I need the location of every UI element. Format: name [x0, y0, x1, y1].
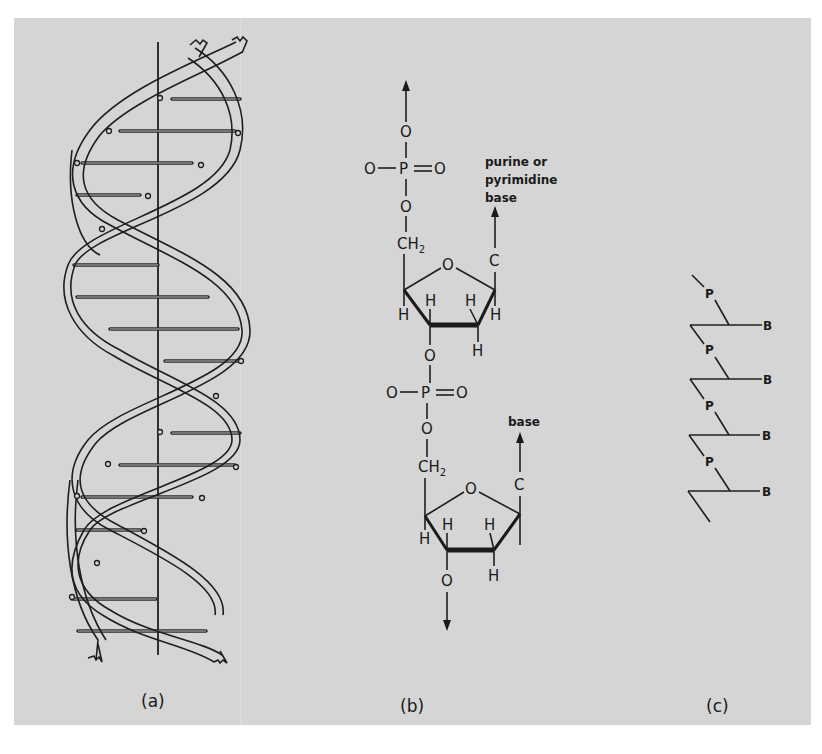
phosphate-label: P	[705, 399, 714, 413]
phosphate-label: P	[705, 343, 714, 357]
atom-o: O	[456, 384, 468, 402]
atom-h: H	[419, 530, 430, 548]
atom-h: H	[442, 516, 453, 534]
atom-o: O	[400, 123, 412, 141]
helix-strand-back	[64, 40, 243, 663]
phosphate-label: P	[705, 455, 714, 469]
atom-c: C	[514, 476, 524, 494]
arrow-down-icon	[443, 620, 451, 631]
atom-o: O	[386, 384, 398, 402]
backbone-schematic-diagram: P B P B P B P B (c)	[688, 275, 772, 716]
atom-h: H	[488, 567, 499, 585]
panel-label-a: (a)	[141, 691, 165, 711]
atom-o: O	[400, 198, 412, 216]
base-pair-rungs	[72, 99, 240, 631]
atom-h: H	[425, 292, 436, 310]
base-label: B	[763, 373, 772, 387]
atom-o: O	[421, 420, 433, 438]
atom-c: C	[489, 252, 499, 270]
figure-canvas: (a) O O P O O CH2 O C purine or pyrimidi…	[0, 0, 822, 754]
atom-h: H	[398, 306, 409, 324]
base-label-line3: base	[485, 191, 517, 205]
arrow-up-icon	[402, 80, 410, 91]
arrow-up-icon	[491, 206, 499, 217]
atom-o: O	[424, 347, 436, 365]
atom-h: H	[472, 342, 483, 360]
base-label: base	[508, 415, 540, 429]
double-helix-diagram: (a)	[64, 37, 250, 711]
base-label: B	[762, 429, 771, 443]
base-label: B	[762, 485, 771, 499]
base-label: B	[763, 319, 772, 333]
atom-h: H	[484, 516, 495, 534]
atom-o: O	[364, 160, 376, 178]
atom-p: P	[421, 384, 430, 402]
atom-o: O	[434, 160, 446, 178]
atom-p: P	[399, 160, 408, 178]
atom-h: H	[465, 292, 476, 310]
arrow-up-icon	[516, 432, 524, 443]
ring-oxygen: O	[465, 480, 477, 498]
base-label-line1: purine or	[485, 155, 547, 169]
panel-label-b: (b)	[400, 696, 424, 716]
ch2-group: CH2	[397, 235, 425, 255]
phosphate-label: P	[705, 287, 714, 301]
nucleotide-structure-diagram: O O P O O CH2 O C purine or pyrimidine b…	[364, 80, 557, 716]
ring-oxygen: O	[442, 256, 454, 274]
panel-label-c: (c)	[706, 696, 729, 716]
ch2-group: CH2	[418, 458, 446, 478]
base-label-line2: pyrimidine	[485, 173, 557, 187]
atom-h: H	[490, 306, 501, 324]
atom-o: O	[441, 572, 453, 590]
